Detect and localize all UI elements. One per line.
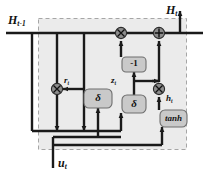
- label-candidate-sub: t: [171, 98, 173, 104]
- operator-add-merge: [153, 27, 164, 38]
- label-hidden-prev: Ht-1: [8, 14, 26, 26]
- operator-mul-reset: [51, 83, 62, 94]
- label-update-gate: zt: [111, 76, 116, 85]
- block-label-sigma-reset: δ: [84, 92, 112, 103]
- block-label-tanh: tanh: [160, 114, 187, 123]
- label-input-sub: t: [65, 162, 67, 171]
- label-reset-gate: rt: [64, 76, 69, 85]
- label-hidden-prev-base: H: [8, 13, 17, 27]
- label-hidden-prev-sub: t-1: [17, 19, 25, 28]
- operator-mul-candidate: [153, 83, 164, 94]
- block-label-sigma-update: δ: [122, 98, 146, 109]
- label-hidden-out: Ht: [166, 4, 177, 16]
- gru-cell-diagram: δ -1 δ tanh Ht-1 Ht rt zt ht ut: [0, 0, 206, 176]
- gru-diagram-canvas: [0, 0, 206, 176]
- label-reset-gate-sub: t: [68, 80, 70, 86]
- label-input-base: u: [58, 156, 65, 170]
- label-update-gate-base: z: [111, 75, 115, 85]
- label-input: ut: [58, 157, 67, 169]
- label-hidden-out-base: H: [166, 3, 175, 17]
- label-update-gate-sub: t: [115, 80, 117, 86]
- label-candidate: ht: [166, 94, 173, 103]
- label-reset-gate-base: r: [64, 75, 68, 85]
- operator-mul-forget: [115, 27, 126, 38]
- block-label-negate: -1: [122, 59, 146, 68]
